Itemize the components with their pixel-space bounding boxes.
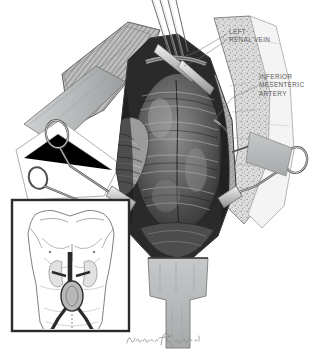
label-left-renal-vein: LEFT RENAL VEIN xyxy=(229,28,270,45)
label-inferior-mesenteric-artery: INFERIOR MESENTERIC ARTERY xyxy=(259,73,304,98)
orientation-inset xyxy=(12,200,129,334)
illustration-page: LEFT RENAL VEIN INFERIOR MESENTERIC ARTE… xyxy=(0,0,324,355)
surgical-illustration xyxy=(0,0,324,355)
